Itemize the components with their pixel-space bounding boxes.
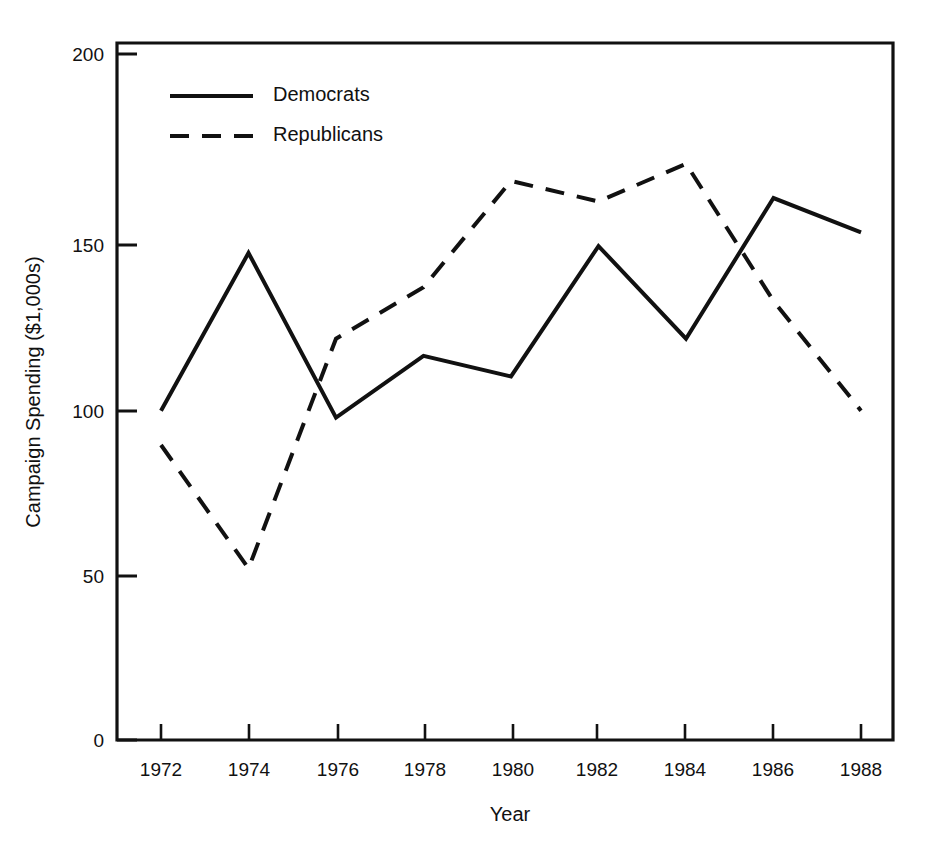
chart-legend: Democrats Republicans (170, 83, 383, 145)
figure-container: 200 150 100 50 0 Campaign Spending ($1,0… (0, 0, 925, 862)
legend-label-republicans: Republicans (273, 123, 383, 145)
line-chart: 200 150 100 50 0 Campaign Spending ($1,0… (0, 0, 925, 862)
y-axis-ticks (117, 54, 137, 740)
y-axis-labels: 200 150 100 50 0 (72, 44, 104, 751)
x-axis-title: Year (490, 803, 531, 825)
x-tick-label-1984: 1984 (664, 759, 707, 780)
x-tick-label-1978: 1978 (404, 759, 446, 780)
x-tick-label-1976: 1976 (317, 759, 359, 780)
y-tick-label-50: 50 (83, 566, 104, 587)
x-tick-label-1974: 1974 (228, 759, 271, 780)
x-axis-labels: 1972 1974 1976 1978 1980 1982 1984 1986 … (140, 759, 882, 780)
y-axis-title: Campaign Spending ($1,000s) (22, 256, 44, 527)
legend-label-democrats: Democrats (273, 83, 370, 105)
y-tick-label-150: 150 (72, 235, 104, 256)
y-tick-label-200: 200 (72, 44, 104, 65)
series-group (161, 164, 861, 569)
y-tick-label-0: 0 (93, 730, 104, 751)
y-tick-label-100: 100 (72, 401, 104, 422)
x-tick-label-1982: 1982 (576, 759, 618, 780)
x-axis-ticks (161, 724, 861, 740)
series-line-democrats (161, 198, 861, 418)
x-tick-label-1972: 1972 (140, 759, 182, 780)
plot-border (117, 43, 893, 740)
x-tick-label-1988: 1988 (840, 759, 882, 780)
x-tick-label-1980: 1980 (492, 759, 534, 780)
x-tick-label-1986: 1986 (752, 759, 794, 780)
plot-frame (117, 43, 893, 740)
